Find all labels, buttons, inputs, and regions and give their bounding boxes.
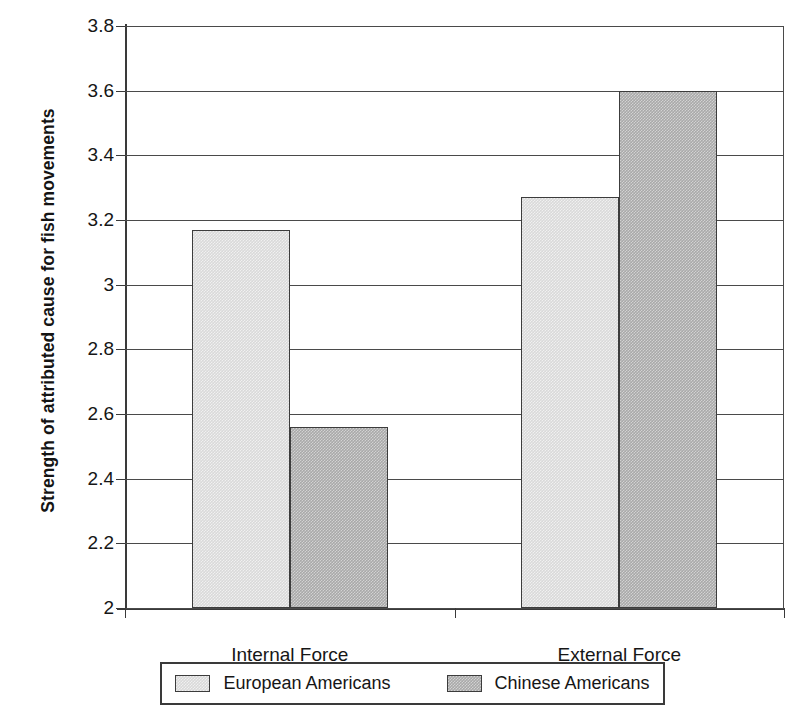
y-tick-label: 3 — [103, 274, 114, 296]
legend-swatch-icon-chinese-americans — [447, 675, 482, 692]
bar — [619, 91, 717, 608]
y-tick-mark — [116, 349, 125, 350]
plot-right-border — [783, 26, 784, 608]
x-tick-mark — [455, 608, 456, 618]
y-tick-label: 3.6 — [88, 80, 114, 102]
y-axis-title: Strength of attributed cause for fish mo… — [38, 11, 59, 611]
x-tick-mark-end — [784, 608, 785, 618]
y-tick-mark — [116, 479, 125, 480]
y-tick-label: 2.8 — [88, 338, 114, 360]
y-tick-mark — [116, 608, 125, 609]
y-axis-line — [125, 24, 127, 610]
legend-item-chinese-americans: Chinese Americans — [447, 673, 650, 694]
legend-label-chinese-americans: Chinese Americans — [495, 673, 650, 694]
y-tick-mark — [116, 155, 125, 156]
bar — [521, 197, 619, 608]
y-tick-label: 2.6 — [88, 403, 114, 425]
legend-item-european-americans: European Americans — [175, 673, 390, 694]
x-tick-mark-origin — [125, 608, 126, 618]
plot-area: 3.83.63.43.232.82.62.42.22 Internal Forc… — [125, 26, 784, 608]
y-tick-mark — [116, 414, 125, 415]
bar-chart: Strength of attributed cause for fish mo… — [0, 0, 798, 722]
y-tick-mark — [116, 26, 125, 27]
bar — [192, 230, 290, 608]
y-tick-mark — [116, 285, 125, 286]
y-tick-label: 2.4 — [88, 468, 114, 490]
y-tick-label: 2 — [103, 597, 114, 619]
legend-swatch-icon-european-americans — [175, 675, 210, 692]
y-tick-label: 2.2 — [88, 532, 114, 554]
y-tick-mark — [116, 543, 125, 544]
y-tick-label: 3.8 — [88, 15, 114, 37]
y-tick-mark — [116, 220, 125, 221]
y-tick-label: 3.2 — [88, 209, 114, 231]
y-tick-mark — [116, 91, 125, 92]
y-tick-label: 3.4 — [88, 144, 114, 166]
legend-label-european-americans: European Americans — [223, 673, 390, 694]
chart-legend: European Americans Chinese Americans — [160, 662, 665, 705]
plot-top-border — [125, 26, 784, 27]
bar — [290, 427, 388, 608]
